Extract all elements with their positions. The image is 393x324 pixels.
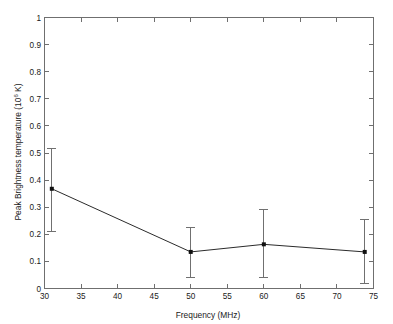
y-tick-label: 1 (36, 14, 41, 23)
series-line (52, 189, 365, 252)
figure-container: 30354045505560657075 00.10.20.30.40.50.6… (0, 0, 393, 324)
y-tick-label: 0.8 (30, 68, 42, 77)
x-tick-label: 30 (40, 292, 50, 301)
y-tick-label: 0.9 (30, 41, 42, 50)
y-tick-label: 0.6 (30, 122, 42, 131)
y-tick-label: 0.3 (30, 203, 42, 212)
y-tick-label: 0.4 (30, 176, 42, 185)
data-point-marker (262, 242, 266, 246)
y-axis-title-group: Peak Brightness temperature (106 K) (13, 83, 23, 220)
data-point-marker (363, 250, 367, 254)
y-tick-label: 0.1 (30, 257, 42, 266)
data-point-markers (50, 187, 367, 254)
y-axis-title: Peak Brightness temperature (106 K) (13, 83, 23, 220)
x-tick-label: 60 (259, 292, 269, 301)
chart-canvas: 30354045505560657075 00.10.20.30.40.50.6… (0, 0, 393, 324)
x-tick-label: 65 (296, 292, 306, 301)
x-tick-label: 50 (186, 292, 196, 301)
x-tick-label: 75 (369, 292, 379, 301)
y-axis-title-main: Peak Brightness temperature (10 (13, 97, 23, 220)
x-tick-label: 40 (113, 292, 123, 301)
x-tick-label: 45 (150, 292, 160, 301)
axis-frame (45, 18, 374, 289)
error-bars (47, 149, 369, 283)
y-tick-label: 0.2 (30, 230, 42, 239)
x-tick-label: 35 (77, 292, 87, 301)
y-axis-tick-labels: 00.10.20.30.40.50.60.70.80.91 (30, 14, 42, 294)
x-axis-title: Frequency (MHz) (176, 310, 241, 320)
y-tick-label: 0 (36, 285, 41, 294)
x-axis-tick-labels: 30354045505560657075 (40, 292, 379, 301)
y-axis-title-tail: K) (13, 83, 23, 94)
x-axis-tickmarks (45, 18, 374, 289)
data-point-marker (189, 250, 193, 254)
x-tick-label: 55 (223, 292, 233, 301)
y-tick-label: 0.5 (30, 149, 42, 158)
y-axis-tickmarks (45, 18, 374, 289)
x-tick-label: 70 (332, 292, 342, 301)
data-point-marker (50, 187, 54, 191)
y-tick-label: 0.7 (30, 95, 42, 104)
